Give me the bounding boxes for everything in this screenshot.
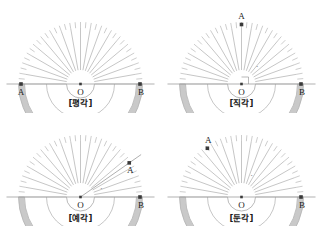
center-point-marker [240,196,243,199]
label-point-b: B [299,200,305,210]
label-center-o: O [77,200,84,210]
panel-acute-angle: •ABO[예각] [0,113,161,226]
point-marker-a [206,146,210,150]
panel-straight-angle: ABO[평각] [0,0,161,113]
label-point-a: A [238,11,245,21]
panel-obtuse-angle: •ABO[둔각] [161,113,322,226]
label-center-o: O [238,200,245,210]
caption-acute-angle: [예각] [0,211,161,223]
radial-line-group [25,28,137,84]
center-point-marker [240,83,243,86]
caption-right-angle: [직각] [161,96,322,108]
angle-figure: ABO[평각]•ABO[직각]•ABO[예각]•ABO[둔각] [0,0,322,227]
point-marker-b [299,82,303,86]
radial-line-group [25,141,137,197]
label-point-b: B [138,200,144,210]
label-point-a: A [127,165,134,175]
protractor-obtuse-angle: •ABO [161,113,322,226]
radial-line-group [186,141,298,197]
radial-line-group [186,28,298,84]
point-marker-b [299,195,303,199]
caption-straight-angle: [평각] [0,96,161,108]
angle-arc-mark: • [251,173,253,178]
angle-arc-mark: • [101,186,103,191]
point-marker-a [19,82,23,86]
point-marker-a [240,23,244,27]
center-point-marker [79,196,82,199]
protractor-acute-angle: •ABO [0,113,161,226]
point-marker-b [138,82,142,86]
center-point-marker [79,83,82,86]
caption-obtuse-angle: [둔각] [161,211,322,223]
panel-right-angle: •ABO[직각] [161,0,322,113]
point-marker-b [138,195,142,199]
label-point-a: A [205,135,212,145]
angle-arc-mark: • [256,64,258,69]
